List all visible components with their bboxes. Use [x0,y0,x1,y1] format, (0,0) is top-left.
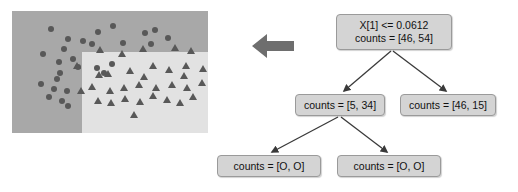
class-0-circle [46,94,52,100]
level1-left-node-counts: counts = [5, 34] [304,99,376,112]
class-0-circle [89,41,95,47]
class-1-triangle [96,46,104,53]
class-0-circle [148,41,154,47]
class-1-triangle [135,81,143,88]
class-1-triangle [88,83,96,90]
class-1-triangle [95,71,103,78]
class-0-circle [48,26,54,32]
class-0-circle [95,29,101,35]
class-1-triangle [104,70,112,77]
class-0-circle [59,98,65,104]
level1-left-node[interactable]: counts = [5, 34] [295,94,385,116]
class-1-triangle [140,73,148,80]
leaf-left-node[interactable]: counts = [O, O] [217,155,321,177]
figure-canvas: X[1] <= 0.0612 counts = [46, 54] counts … [0,0,518,192]
class-1-triangle [136,98,144,105]
class-1-triangle [182,62,190,69]
left-arrow-icon [252,32,294,60]
class-0-circle [165,35,171,41]
class-0-circle [56,59,62,65]
class-0-circle [64,88,70,94]
level1-right-node[interactable]: counts = [46, 15] [400,94,496,116]
class-1-triangle [152,84,160,91]
class-0-circle [57,70,63,76]
class-1-triangle [180,72,188,79]
class-0-circle [54,76,60,82]
class-1-triangle [106,87,114,94]
class-1-triangle [120,84,128,91]
class-0-circle [61,46,67,52]
level1-right-node-counts: counts = [46, 15] [409,99,487,112]
edge-left-leafleft [272,117,338,152]
leaf-left-node-counts: counts = [O, O] [234,160,305,173]
class-1-triangle [176,99,184,106]
class-1-triangle [94,97,102,104]
edge-root-right [393,51,446,91]
class-1-triangle [118,50,126,57]
scatter-plot-panel [12,11,208,133]
class-1-triangle [149,92,157,99]
class-1-triangle [168,81,176,88]
class-1-triangle [199,65,207,72]
class-0-circle [80,38,86,44]
class-1-triangle [126,67,134,74]
root-node-condition: X[1] <= 0.0612 [360,19,429,32]
class-1-triangle [73,62,81,69]
class-1-triangle [163,96,171,103]
class-1-triangle [139,45,147,52]
class-1-triangle [183,84,191,91]
class-0-circle [109,61,115,67]
class-0-circle [152,27,158,33]
class-0-circle [38,81,44,87]
class-0-circle [65,36,71,42]
class-0-circle [40,51,46,57]
class-1-triangle [149,62,157,69]
class-1-triangle [107,99,115,106]
class-1-triangle [130,111,138,118]
class-1-triangle [77,87,85,94]
root-node-counts: counts = [46, 54] [355,32,433,45]
class-1-triangle [165,66,173,73]
class-1-triangle [187,47,195,54]
leaf-right-node-counts: counts = [O, O] [354,160,425,173]
edge-root-left [344,51,391,91]
class-0-circle [110,23,116,29]
leaf-right-node[interactable]: counts = [O, O] [337,155,441,177]
class-1-triangle [198,79,206,86]
class-1-triangle [121,95,129,102]
class-0-circle [142,30,148,36]
class-0-circle [65,103,71,109]
root-node[interactable]: X[1] <= 0.0612 counts = [46, 54] [336,14,452,50]
class-1-triangle [171,44,179,51]
class-0-circle [51,86,57,92]
class-0-circle [120,40,126,46]
class-1-triangle [189,93,197,100]
edge-left-leafright [341,117,387,152]
